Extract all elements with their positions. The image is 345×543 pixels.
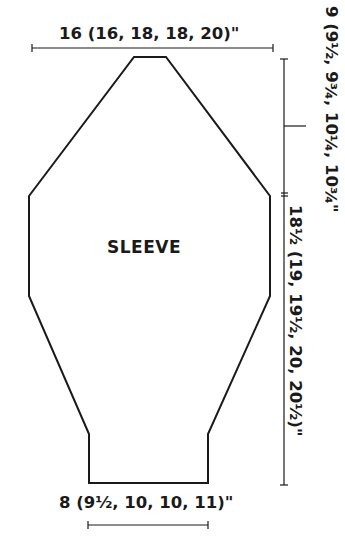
sleeve-outline (29, 57, 270, 483)
cuff-width-dimension-line (88, 521, 208, 529)
cap-height-label: 9 (9½, 9¾, 10¼, 10¾" (322, 6, 341, 213)
length-label: 18½ (19, 19½, 20, 20½)" (286, 205, 305, 437)
cuff-width-label: 8 (9½, 10, 10, 11)" (59, 493, 233, 512)
top-width-dimension-line (32, 44, 273, 52)
top-width-label: 16 (16, 18, 18, 20)" (59, 24, 239, 43)
piece-label: SLEEVE (107, 237, 181, 257)
